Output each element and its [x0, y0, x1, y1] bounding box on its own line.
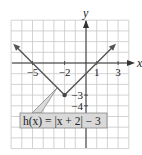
- y-axis-arrow-icon: [83, 20, 89, 28]
- absolute-value-graph: x y −5−213−3−4 h(x) = |x + 2| − 3: [0, 0, 142, 155]
- x-axis-label: x: [136, 56, 142, 70]
- function-label-text: h(x) = |x + 2| − 3: [23, 115, 101, 128]
- x-tick-label: −2: [59, 66, 71, 78]
- grid-lines: [11, 20, 129, 148]
- y-axis-label: y: [82, 6, 89, 20]
- vertex-point: [62, 93, 66, 97]
- x-axis-arrow-icon: [127, 60, 135, 66]
- x-tick-label: 1: [94, 66, 100, 78]
- x-tick-label: 3: [115, 66, 121, 78]
- y-tick-label: −4: [71, 100, 83, 112]
- callout-pointer: [32, 88, 57, 113]
